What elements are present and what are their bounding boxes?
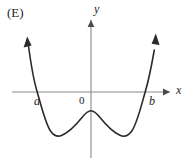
- curve-left-arrow-icon: [24, 37, 32, 48]
- quartic-curve: [24, 34, 160, 137]
- panel-label: (E): [7, 6, 24, 19]
- graph-figure: (E) y x 0 a b: [0, 0, 192, 160]
- y-axis-label: y: [94, 3, 99, 15]
- right-intercept-label: b: [149, 95, 155, 107]
- x-axis-label: x: [176, 84, 181, 96]
- y-axis-arrow-icon: [88, 20, 95, 27]
- curve-right-arrow-icon: [152, 34, 160, 46]
- origin-label: 0: [79, 95, 85, 106]
- x-axis-arrow-icon: [163, 89, 170, 96]
- left-intercept-label: a: [34, 95, 40, 107]
- graph-canvas: [0, 0, 192, 160]
- y-axis: [88, 20, 95, 158]
